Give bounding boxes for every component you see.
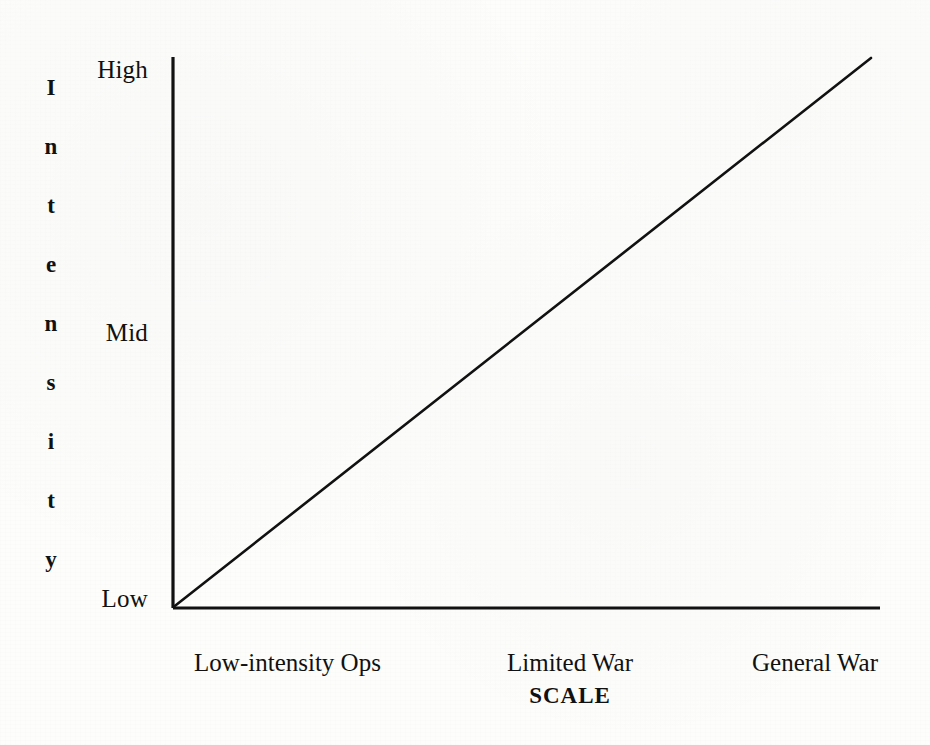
y-axis-title-letter: n	[45, 135, 58, 194]
x-axis-tick-label-low-intensity-ops: Low-intensity Ops	[155, 650, 420, 675]
x-axis-title: SCALE	[455, 683, 685, 709]
x-axis-tick-label-general-war: General War	[700, 650, 930, 675]
y-axis-title-letter: t	[47, 194, 55, 253]
data-line-intensity-vs-scale	[174, 58, 872, 607]
y-axis-title: I n t e n s i t y	[34, 76, 68, 607]
y-axis-title-letter: I	[47, 76, 56, 135]
y-axis-title-letter: n	[45, 312, 58, 371]
y-axis-title-letter: i	[48, 430, 54, 489]
y-axis-title-letter: t	[47, 489, 55, 548]
x-axis-tick-label-limited-war: Limited War	[455, 650, 685, 675]
y-axis-title-letter: s	[47, 371, 56, 430]
figure-page: High Mid Low I n t e n s i t y Low-inten…	[0, 0, 930, 745]
y-axis-title-letter: y	[45, 548, 57, 607]
y-axis-title-letter: e	[46, 253, 56, 312]
chart-plot-area	[0, 0, 930, 745]
